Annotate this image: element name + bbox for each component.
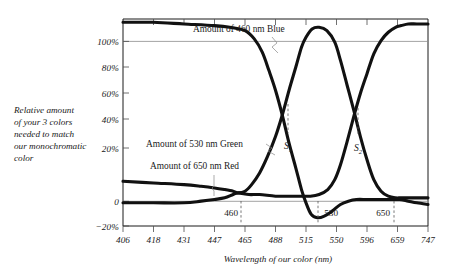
x-tick-label: 418 [146, 235, 160, 245]
y-tick-label: −20% [96, 222, 120, 232]
y-axis-title-line: our monochromatic [14, 141, 86, 151]
red-curve-label: Amount of 650 nm Red [150, 161, 239, 171]
y-tick-label: 60% [102, 89, 119, 99]
y-axis-title-line: of your 3 colors [14, 117, 73, 127]
y-tick-label: 20% [102, 144, 119, 154]
x-tick-label: 515 [299, 235, 313, 245]
marker-650-label: 650 [376, 208, 390, 218]
blue-curve-label: Amount of 460 nm Blue [193, 24, 285, 34]
green-curve-label: Amount of 530 nm Green [146, 139, 243, 149]
y-tick-label: 80% [102, 63, 119, 73]
y-axis-title-line: color [14, 153, 34, 163]
x-tick-label: 431 [177, 235, 191, 245]
y-tick-label: 100% [97, 37, 119, 47]
y-axis-title-line: Relative amount [13, 105, 74, 115]
marker-460-label: 460 [224, 208, 238, 218]
y-tick-label: 40% [102, 115, 119, 125]
chart-svg: 100% 80% 60% 40% 20% 0 −20% 406 418 431 [0, 0, 452, 271]
x-tick-label: 747 [421, 235, 435, 245]
x-tick-label: 488 [268, 235, 282, 245]
x-tick-label: 406 [116, 235, 130, 245]
y-tick-label: 0 [114, 197, 119, 207]
x-tick-label: 465 [238, 235, 252, 245]
x-tick-label: 659 [390, 235, 404, 245]
y-axis-title-line: needed to match [14, 129, 75, 139]
x-axis-title: Wavelength of our color (nm) [224, 254, 332, 264]
x-tick-label: 596 [360, 235, 374, 245]
x-tick-label: 550 [329, 235, 343, 245]
color-matching-chart: 100% 80% 60% 40% 20% 0 −20% 406 418 431 [0, 0, 452, 271]
x-tick-label: 447 [207, 235, 221, 245]
marker-530-label: 530 [324, 208, 338, 218]
